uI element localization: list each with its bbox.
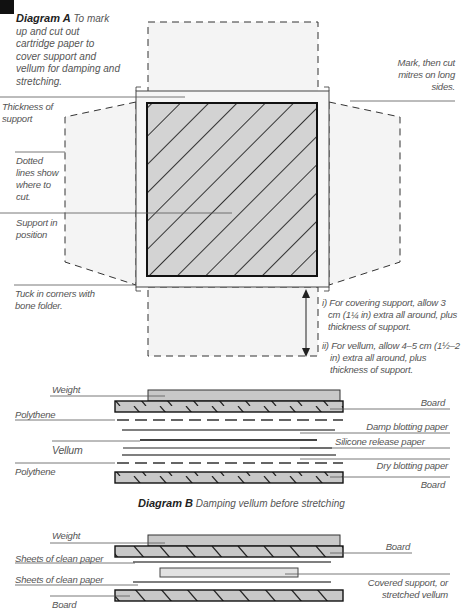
label-thickness: Thickness of support	[2, 101, 62, 125]
label-dotted-lines: Dotted lines show where to cut.	[16, 155, 61, 203]
note-covering-support: i) For covering support, allow 3 cm (1¼ …	[322, 297, 458, 333]
label-b-polythene-top: Polythene	[15, 409, 55, 421]
label-c-board-right: Board	[340, 541, 410, 553]
diagram-b-caption: Diagram B Damping vellum before stretchi…	[138, 497, 398, 511]
right-flap	[329, 102, 400, 285]
diagram-a-caption-text: To mark up and cut out cartridge paper t…	[16, 13, 120, 87]
label-b-damp-blotting: Damp blotting paper	[330, 421, 448, 433]
label-c-board-left: Board	[52, 599, 76, 611]
label-tuck-corners: Tuck in corners with bone folder.	[15, 288, 115, 312]
label-b-board-top: Board	[360, 397, 445, 409]
bottom-flap	[148, 287, 318, 356]
label-c-covered: Covered support, or stretched vellum	[355, 577, 448, 601]
label-b-silicone: Silicone release paper	[335, 436, 425, 448]
support-square	[147, 103, 317, 276]
label-b-dry-blotting: Dry blotting paper	[330, 460, 448, 472]
diagram-b-caption-text: Damping vellum before stretching	[196, 498, 345, 509]
label-b-board-bottom: Board	[360, 479, 445, 491]
label-c-sheets-top: Sheets of clean paper	[15, 553, 103, 565]
diagram-a-title: Diagram A	[16, 12, 71, 24]
label-b-polythene-bottom: Polythene	[15, 466, 55, 478]
left-flap	[65, 102, 136, 285]
label-support: Support in position	[16, 217, 61, 241]
label-c-sheets-bottom: Sheets of clean paper	[15, 574, 103, 586]
label-b-weight: Weight	[52, 384, 80, 396]
label-mark-mitres: Mark, then cut mitres on long sides.	[392, 57, 455, 93]
note-vellum: ii) For vellum, allow 4–5 cm (1½–2 in) e…	[322, 340, 462, 376]
label-b-vellum: Vellum	[52, 444, 83, 456]
top-flap	[148, 22, 318, 92]
label-c-weight: Weight	[52, 530, 80, 542]
diagram-a-caption: Diagram A To mark up and cut out cartrid…	[16, 12, 121, 88]
diagram-b-title: Diagram B	[138, 497, 193, 509]
